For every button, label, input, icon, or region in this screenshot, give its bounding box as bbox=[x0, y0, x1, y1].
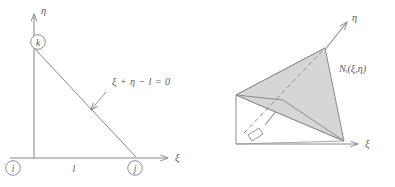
figure-root: i j k l η ξ ξ + η − l = 0 bbox=[0, 0, 395, 187]
line-equation-label: ξ + η − l = 0 bbox=[112, 76, 170, 88]
right-diagram: η ξ Nᵢ(ξ,η) bbox=[236, 12, 370, 150]
xi-axis-label-right: ξ bbox=[365, 138, 370, 150]
eta-axis-label-left: η bbox=[41, 5, 46, 16]
pyramid-face-main bbox=[236, 48, 344, 141]
left-diagram: i j k l η ξ ξ + η − l = 0 bbox=[6, 5, 180, 175]
right-angle-icon bbox=[248, 128, 263, 141]
hypotenuse-line bbox=[34, 48, 136, 157]
node-i-label: i bbox=[12, 164, 15, 174]
eta-axis-label-right: η bbox=[352, 12, 357, 23]
shape-function-label: Nᵢ(ξ,η) bbox=[338, 63, 367, 75]
figure-canvas: i j k l η ξ ξ + η − l = 0 bbox=[0, 0, 395, 187]
edge-length-label: l bbox=[73, 163, 76, 174]
xi-axis-label-left: ξ bbox=[175, 152, 180, 164]
equation-leader-arrow bbox=[91, 92, 106, 110]
